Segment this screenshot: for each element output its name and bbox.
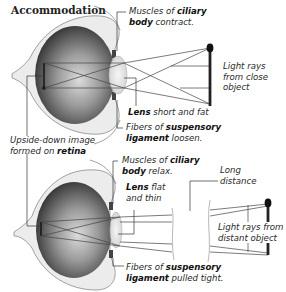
label-retina-image: Upside-down image formed on retina xyxy=(10,135,95,156)
label-ligament-loosen: Fibers of suspensory ligament loosen. xyxy=(126,122,221,143)
diagram-title: Accommodation xyxy=(11,4,106,16)
accommodation-diagram: Accommodation Muscles of ciliary body co… xyxy=(0,0,286,292)
ciliary-body-bottom xyxy=(109,250,113,258)
vitreous-body xyxy=(36,182,112,278)
ciliary-body-top xyxy=(109,202,113,210)
vitreous-body xyxy=(35,26,115,124)
label-ciliary-contract: Muscles of ciliary body contract. xyxy=(129,6,207,27)
label-lens-short-fat: Lens short and fat xyxy=(128,107,209,118)
label-ciliary-relax: Muscles of ciliary body relax. xyxy=(122,155,200,176)
label-ligament-tight: Fibers of suspensory ligament pulled tig… xyxy=(126,262,224,283)
label-close-object-rays: Light rays from close object xyxy=(223,61,268,93)
label-long-distance: Long distance xyxy=(220,165,256,186)
label-lens-flat-thin: Lens flat and thin xyxy=(126,182,165,203)
label-distant-object-rays: Light rays from distant object xyxy=(217,222,284,243)
